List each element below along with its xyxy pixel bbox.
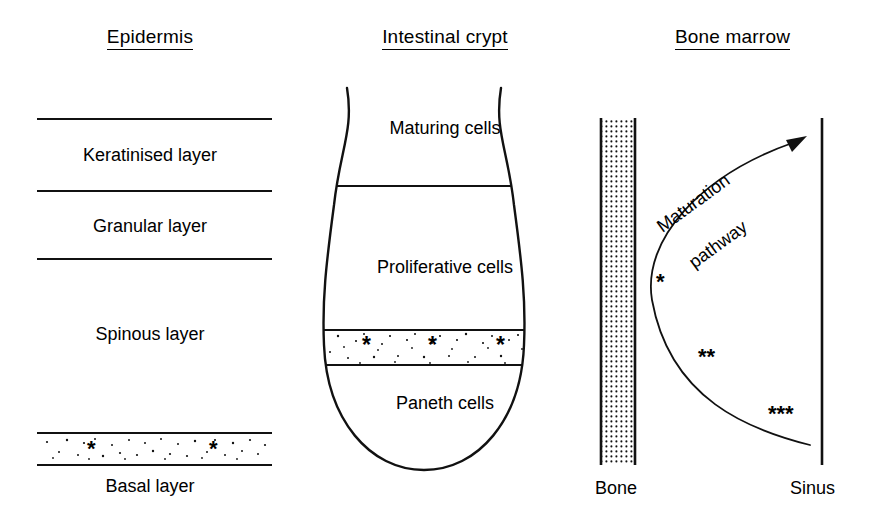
panel-marrow: Bone marrow Maturation pathway * ** [590,0,875,532]
basal-stipple [37,434,272,463]
epidermis-layer-label-basal: Basal layer [0,476,300,497]
epidermis-divider-2 [37,190,272,192]
marrow-stem-marker-3: *** [768,403,794,425]
crypt-zone-label-maturing: Maturing cells [300,118,590,139]
epidermis-divider-3 [37,258,272,260]
crypt-stem-asterisk-1: * [362,334,370,357]
crypt-stem-asterisk-2: * [428,334,436,357]
panel-crypt: Intestinal crypt [300,0,590,532]
epidermis-layer-label-spinous: Spinous layer [0,324,300,345]
crypt-zone-label-proliferative: Proliferative cells [300,257,590,278]
marrow-stem-marker-1: * [656,271,665,293]
marrow-graphic [590,0,875,532]
epidermis-layer-label-granular: Granular layer [0,216,300,237]
crypt-zone-label-paneth: Paneth cells [300,393,590,414]
bone-stipple-fill [601,118,635,465]
epidermis-stem-asterisk-2: * [209,438,218,460]
maturation-pathway-arrowhead [786,136,807,152]
marrow-label-bone: Bone [595,478,637,499]
marrow-label-sinus: Sinus [790,478,835,499]
epidermis-basal-stem-band: * * [37,432,272,466]
epidermis-layer-label-keratinised: Keratinised layer [0,145,300,166]
crypt-stem-band-fill [300,330,590,365]
figure-canvas: Epidermis Keratinised layer Granular lay… [0,0,875,532]
panel-title-epidermis: Epidermis [0,26,300,48]
epidermis-divider-1 [37,118,272,120]
epidermis-stem-asterisk-1: * [87,438,96,460]
panel-title-epidermis-text: Epidermis [107,26,193,50]
crypt-stem-asterisk-3: * [496,334,504,357]
marrow-stem-marker-2: ** [698,346,715,368]
panel-epidermis: Epidermis Keratinised layer Granular lay… [0,0,300,532]
